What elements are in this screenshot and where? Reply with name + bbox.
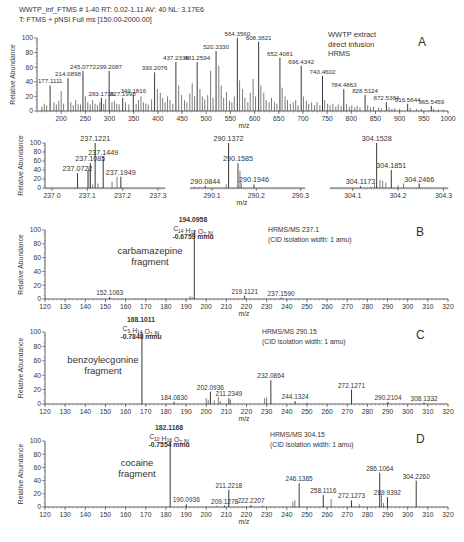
base-peak-error: -0.6759 mmu	[172, 233, 213, 240]
x-tick-label: 240	[281, 511, 293, 518]
peak-label: 290.1372	[214, 134, 244, 143]
panel-annotation: HRMS/MS 304.15	[270, 431, 325, 438]
x-tick-label: 130	[59, 511, 71, 518]
x-tick-label: 500	[201, 115, 213, 122]
x-tick-label: 700	[297, 115, 309, 122]
peak-label: 244.1324	[282, 393, 309, 400]
x-tick-label: 190	[180, 408, 192, 415]
panel-annotation: HRMS/MS 237.1	[268, 226, 319, 233]
x-tick-label: 190	[180, 511, 192, 518]
y-tick-label: 20	[33, 282, 41, 289]
spectrum-panel-a-inset-3: 304.1304.2304.3304.1173304.1528304.18513…	[330, 134, 452, 199]
x-tick-label: 950	[418, 115, 430, 122]
peak-label: 237.1449	[88, 148, 118, 157]
y-tick-label: 80	[33, 343, 41, 350]
peak-label: 222.2207	[237, 497, 264, 504]
y-tick-label: 20	[33, 175, 41, 182]
x-tick-label: 290.3	[292, 192, 309, 199]
fragment-label: benzoylecgonine	[67, 354, 138, 365]
x-tick-label: 230	[261, 511, 273, 518]
peak-label: 965.5459	[418, 98, 444, 105]
x-tick-label: 237.2	[114, 192, 131, 199]
spectrum-panel-a: 2002503003504004505005506006507007508008…	[9, 30, 456, 129]
y-tick-label: 20	[33, 386, 41, 393]
peak-label: 237.1949	[106, 168, 136, 177]
x-tick-label: 170	[140, 303, 152, 310]
x-tick-label: 120	[39, 303, 51, 310]
x-tick-label: 300	[104, 115, 116, 122]
x-tick-label: 170	[140, 408, 152, 415]
x-tick-label: 270	[342, 408, 354, 415]
y-tick-label: 100	[30, 328, 42, 335]
x-tick-label: 240	[281, 408, 293, 415]
peak-label: 258.1116	[310, 487, 337, 494]
x-tick-label: 240	[281, 303, 293, 310]
peak-label: 245.0772	[70, 63, 96, 70]
x-tick-label: 320	[442, 303, 454, 310]
spectrum-panel-c: 1201301401501601701801902002102202302402…	[17, 316, 454, 422]
x-tick-label: 160	[120, 303, 132, 310]
y-tick-label: 40	[33, 372, 41, 379]
x-tick-label: 160	[120, 408, 132, 415]
x-tick-label: 220	[241, 408, 253, 415]
y-tick-label: 0	[29, 107, 33, 114]
peak-label: 696.4342	[288, 58, 314, 65]
peak-label: 304.2466	[404, 175, 434, 184]
scan-header-line1: WWTP_inf_FTMS # 1-40 RT: 0.02-1.11 AV: 4…	[19, 5, 204, 15]
peak-label: 232.0864	[257, 372, 284, 379]
y-axis-label: Relative Abundance	[9, 44, 16, 105]
x-tick-label: 200	[56, 115, 68, 122]
x-tick-label: 150	[100, 511, 112, 518]
x-tick-label: 290.2	[248, 192, 265, 199]
panel-annotation: (CID isolation width: 1 amu)	[262, 338, 345, 346]
x-tick-label: 230	[261, 303, 273, 310]
x-tick-label: 650	[273, 115, 285, 122]
peak-label: 272.1273	[338, 492, 365, 499]
peak-label: 237.1221	[80, 134, 110, 143]
x-tick-label: 200	[201, 303, 213, 310]
y-tick-label: 40	[33, 166, 41, 173]
x-tick-label: 300	[402, 408, 414, 415]
peak-label: 916.5644	[395, 96, 421, 103]
peak-label: 520.3330	[203, 43, 229, 50]
x-tick-label: 260	[321, 408, 333, 415]
x-tick-label: 180	[160, 511, 172, 518]
peak-label: 211.2218	[215, 482, 242, 489]
y-tick-label: 20	[25, 93, 33, 100]
x-tick-label: 237.1	[79, 192, 96, 199]
spectrum-panel-b: 1201301401501601701801902002102202302402…	[17, 216, 454, 317]
peak-label: 349.1816	[120, 87, 146, 94]
x-tick-label: 300	[402, 511, 414, 518]
y-tick-label: 60	[25, 64, 33, 71]
x-tick-label: 130	[59, 408, 71, 415]
peak-label: 290.1946	[239, 175, 269, 184]
y-tick-label: 20	[33, 490, 41, 497]
x-tick-label: 310	[422, 408, 434, 415]
y-axis-label: Relative Abundance	[17, 234, 24, 295]
fragment-label: cocaine	[121, 457, 154, 468]
fragment-label: fragment	[84, 365, 122, 376]
peak-label: 290.0844	[190, 177, 220, 186]
peak-label: 828.5124	[352, 87, 378, 94]
x-tick-label: 600	[249, 115, 261, 122]
x-tick-label: 180	[160, 408, 172, 415]
peak-label: 304.1851	[376, 161, 406, 170]
peak-label: 289.9392	[374, 489, 401, 496]
x-tick-label: 290	[382, 303, 394, 310]
peak-label: 237.1590	[268, 290, 295, 297]
y-tick-label: 60	[33, 254, 41, 261]
y-tick-label: 80	[33, 451, 41, 458]
y-axis-label: Relative Abundance	[17, 444, 24, 505]
y-tick-label: 100	[30, 139, 42, 146]
y-tick-label: 60	[33, 357, 41, 364]
y-tick-label: 80	[33, 148, 41, 155]
y-tick-label: 0	[37, 295, 41, 302]
x-tick-label: 310	[422, 511, 434, 518]
y-tick-label: 40	[33, 268, 41, 275]
x-tick-label: 310	[422, 303, 434, 310]
x-tick-label: 550	[225, 115, 237, 122]
x-tick-label: 200	[201, 511, 213, 518]
x-tick-label: 237.0	[44, 192, 61, 199]
x-tick-label: 120	[39, 408, 51, 415]
peak-label: 481.2594	[184, 54, 210, 61]
